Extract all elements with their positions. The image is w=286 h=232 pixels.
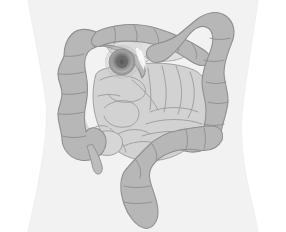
large-intestine-diagram [0,0,286,232]
lesion-center-dot [120,60,125,65]
lesion-marker [105,45,139,79]
anatomy-illustration: Large intestine with highlighted lesion … [0,0,286,232]
